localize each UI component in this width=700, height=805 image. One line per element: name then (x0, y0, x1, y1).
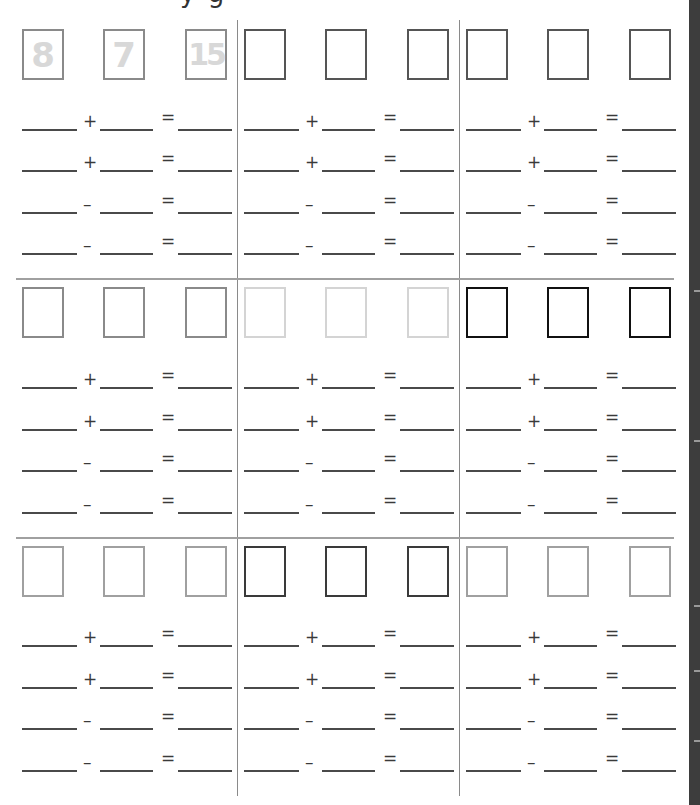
addend-blank[interactable] (466, 429, 521, 431)
result-blank[interactable] (400, 645, 454, 647)
addend-blank[interactable] (22, 687, 77, 689)
result-blank[interactable] (400, 387, 454, 389)
addend-blank[interactable] (244, 687, 299, 689)
number-box[interactable]: 15 (185, 29, 227, 80)
result-blank[interactable] (622, 728, 676, 730)
number-box[interactable] (22, 287, 64, 338)
second-term-blank[interactable] (322, 129, 375, 131)
addend-blank[interactable] (466, 170, 521, 172)
number-box[interactable] (547, 287, 589, 338)
second-term-blank[interactable] (322, 512, 375, 514)
second-term-blank[interactable] (100, 429, 153, 431)
result-blank[interactable] (178, 470, 232, 472)
result-blank[interactable] (400, 728, 454, 730)
addend-blank[interactable] (244, 728, 299, 730)
addend-blank[interactable] (466, 387, 521, 389)
addend-blank[interactable] (244, 129, 299, 131)
second-term-blank[interactable] (544, 770, 597, 772)
result-blank[interactable] (400, 129, 454, 131)
result-blank[interactable] (622, 170, 676, 172)
second-term-blank[interactable] (100, 170, 153, 172)
number-box[interactable] (185, 546, 227, 597)
number-box[interactable] (325, 287, 367, 338)
addend-blank[interactable] (466, 129, 521, 131)
second-term-blank[interactable] (544, 687, 597, 689)
number-box[interactable] (244, 287, 286, 338)
addend-blank[interactable] (466, 687, 521, 689)
addend-blank[interactable] (244, 512, 299, 514)
result-blank[interactable] (622, 645, 676, 647)
second-term-blank[interactable] (544, 212, 597, 214)
number-box[interactable] (466, 546, 508, 597)
addend-blank[interactable] (244, 253, 299, 255)
number-box[interactable] (325, 29, 367, 80)
second-term-blank[interactable] (100, 470, 153, 472)
result-blank[interactable] (178, 645, 232, 647)
number-box[interactable] (547, 546, 589, 597)
second-term-blank[interactable] (100, 512, 153, 514)
addend-blank[interactable] (466, 512, 521, 514)
second-term-blank[interactable] (322, 770, 375, 772)
second-term-blank[interactable] (544, 512, 597, 514)
result-blank[interactable] (178, 770, 232, 772)
number-box[interactable] (407, 287, 449, 338)
addend-blank[interactable] (244, 387, 299, 389)
second-term-blank[interactable] (544, 645, 597, 647)
second-term-blank[interactable] (322, 387, 375, 389)
number-box[interactable] (185, 287, 227, 338)
result-blank[interactable] (622, 253, 676, 255)
number-box[interactable] (466, 29, 508, 80)
second-term-blank[interactable] (322, 645, 375, 647)
second-term-blank[interactable] (322, 470, 375, 472)
number-box[interactable] (244, 546, 286, 597)
second-term-blank[interactable] (322, 687, 375, 689)
result-blank[interactable] (400, 253, 454, 255)
second-term-blank[interactable] (100, 645, 153, 647)
result-blank[interactable] (178, 728, 232, 730)
result-blank[interactable] (178, 170, 232, 172)
number-box[interactable] (103, 287, 145, 338)
second-term-blank[interactable] (100, 129, 153, 131)
number-box[interactable] (325, 546, 367, 597)
addend-blank[interactable] (244, 429, 299, 431)
number-box[interactable] (547, 29, 589, 80)
addend-blank[interactable] (22, 129, 77, 131)
result-blank[interactable] (178, 687, 232, 689)
second-term-blank[interactable] (544, 170, 597, 172)
addend-blank[interactable] (22, 512, 77, 514)
addend-blank[interactable] (22, 387, 77, 389)
addend-blank[interactable] (244, 770, 299, 772)
result-blank[interactable] (622, 129, 676, 131)
addend-blank[interactable] (22, 470, 77, 472)
number-box[interactable] (466, 287, 508, 338)
addend-blank[interactable] (466, 728, 521, 730)
second-term-blank[interactable] (544, 728, 597, 730)
number-box[interactable]: 8 (22, 29, 64, 80)
number-box[interactable] (407, 29, 449, 80)
number-box[interactable] (629, 287, 671, 338)
addend-blank[interactable] (22, 212, 77, 214)
addend-blank[interactable] (244, 645, 299, 647)
addend-blank[interactable] (466, 645, 521, 647)
result-blank[interactable] (622, 429, 676, 431)
result-blank[interactable] (622, 512, 676, 514)
result-blank[interactable] (178, 129, 232, 131)
second-term-blank[interactable] (100, 770, 153, 772)
result-blank[interactable] (622, 387, 676, 389)
result-blank[interactable] (400, 170, 454, 172)
addend-blank[interactable] (22, 770, 77, 772)
result-blank[interactable] (400, 429, 454, 431)
number-box[interactable] (22, 546, 64, 597)
addend-blank[interactable] (244, 170, 299, 172)
second-term-blank[interactable] (100, 687, 153, 689)
result-blank[interactable] (622, 687, 676, 689)
second-term-blank[interactable] (322, 728, 375, 730)
result-blank[interactable] (178, 512, 232, 514)
second-term-blank[interactable] (544, 429, 597, 431)
second-term-blank[interactable] (100, 253, 153, 255)
second-term-blank[interactable] (544, 253, 597, 255)
addend-blank[interactable] (244, 470, 299, 472)
second-term-blank[interactable] (544, 129, 597, 131)
result-blank[interactable] (622, 212, 676, 214)
number-box[interactable] (244, 29, 286, 80)
